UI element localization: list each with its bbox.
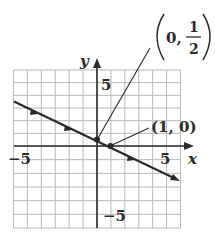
callout-leader-1-0 xyxy=(112,128,149,145)
x-axis-label: x xyxy=(187,150,198,168)
tick-label-y-pos5: 5 xyxy=(101,76,111,94)
tick-label-y-neg5: −5 xyxy=(103,207,126,225)
point-1-0 xyxy=(108,143,114,149)
point-label-0-half: 0, 1 2 xyxy=(157,14,210,60)
y-axis-label: y xyxy=(79,52,90,70)
x-axis-arrow-icon xyxy=(184,142,194,150)
fraction-denominator: 2 xyxy=(189,41,199,57)
chart-figure: y x −5 5 5 −5 (1, 0) 0, 1 2 xyxy=(0,0,215,232)
line-end-arrow-icon xyxy=(170,174,180,181)
point-label-1-0: (1, 0) xyxy=(151,118,197,136)
left-paren-icon xyxy=(157,14,164,60)
y-axis-arrow-icon xyxy=(93,58,101,68)
right-paren-icon xyxy=(203,14,210,60)
chart-svg: y x −5 5 5 −5 (1, 0) 0, 1 2 xyxy=(0,0,215,232)
tick-label-x-neg5: −5 xyxy=(8,150,31,168)
point-label-prefix: 0, xyxy=(166,29,182,47)
fraction-numerator: 1 xyxy=(189,19,199,35)
tick-label-x-pos5: 5 xyxy=(160,150,170,168)
point-0-half xyxy=(94,137,100,143)
